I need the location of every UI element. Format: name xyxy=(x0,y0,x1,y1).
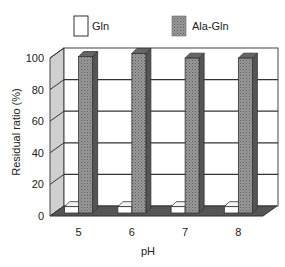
y-tick-label: 40 xyxy=(32,147,44,159)
x-tick-label: 7 xyxy=(182,226,188,238)
legend-swatch-gln xyxy=(74,16,88,36)
x-tick-label: 5 xyxy=(76,226,82,238)
y-axis-label: Residual ratio (%) xyxy=(10,88,22,175)
y-tick-label: 20 xyxy=(32,178,44,190)
y-axis: 020406080100 xyxy=(26,52,44,222)
bar-ala-gln xyxy=(238,53,257,213)
x-tick-label: 6 xyxy=(129,226,135,238)
bar-ala-gln xyxy=(132,48,151,213)
legend-label-gln: Gln xyxy=(92,20,109,32)
bar-chart: Gln Ala-Gln 020406080100 5678 pH Residua… xyxy=(0,0,285,267)
side-wall xyxy=(50,48,64,216)
bar-ala-gln xyxy=(79,52,98,213)
bar-ala-gln xyxy=(185,53,204,213)
y-tick-label: 100 xyxy=(26,52,44,64)
legend-swatch-ala-gln xyxy=(172,16,186,36)
y-tick-label: 60 xyxy=(32,115,44,127)
x-axis: 5678 xyxy=(76,226,242,238)
y-tick-label: 80 xyxy=(32,84,44,96)
x-axis-label: pH xyxy=(141,245,155,257)
y-tick-label: 0 xyxy=(38,210,44,222)
x-tick-label: 8 xyxy=(235,226,241,238)
legend-label-ala-gln: Ala-Gln xyxy=(192,20,229,32)
legend: Gln Ala-Gln xyxy=(74,16,229,36)
plot-area xyxy=(50,48,278,216)
